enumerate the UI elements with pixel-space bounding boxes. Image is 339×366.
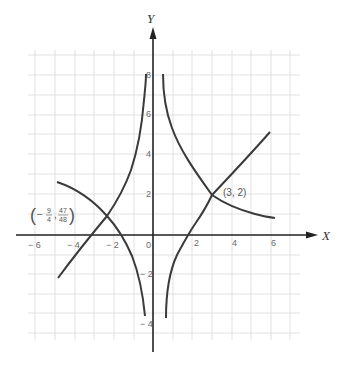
fraction-numerator: 47 <box>59 207 67 214</box>
x-tick-label: 4 <box>232 238 237 248</box>
x-tick-label: − 6 <box>28 240 41 250</box>
x-axis-label: X <box>321 228 331 243</box>
paren-open: ( <box>30 205 36 225</box>
fraction-denominator: 48 <box>59 216 67 223</box>
x-tick-label: − 4 <box>67 240 80 250</box>
y-tick-label: − 2 <box>140 269 153 279</box>
x-tick-label: 6 <box>271 238 276 248</box>
x-tick-label: 0 <box>146 240 151 250</box>
y-axis-arrow-icon <box>150 27 157 39</box>
paren-close: ) <box>69 205 75 225</box>
minus-sign: − <box>37 209 43 220</box>
chart-plot: X Y − 6 − 4 − 2 0 2 4 6 8 6 4 2 − 2 − 4 … <box>0 0 339 366</box>
fraction-numerator: 9 <box>47 207 51 214</box>
y-tick-label: 4 <box>146 149 151 159</box>
y-tick-label: 2 <box>146 189 151 199</box>
intersection-label-left: ( − 9 4 , 47 48 ) <box>30 205 75 225</box>
comma: , <box>54 209 57 220</box>
curve-right-rising <box>166 132 270 318</box>
fraction-denominator: 4 <box>47 216 51 223</box>
y-axis-label: Y <box>147 11 156 26</box>
intersection-label-right: (3, 2) <box>223 187 246 198</box>
x-axis-arrow-icon <box>306 232 318 239</box>
y-tick-label: − 4 <box>140 319 153 329</box>
y-tick-label: 6 <box>146 109 151 119</box>
x-tick-label: 2 <box>194 238 199 248</box>
x-tick-label: − 2 <box>106 240 119 250</box>
